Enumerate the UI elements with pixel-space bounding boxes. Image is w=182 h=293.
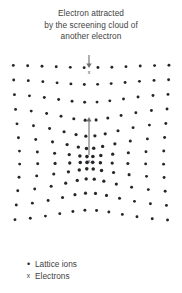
lattice-ion <box>99 161 102 164</box>
lattice-ion <box>166 108 169 111</box>
lattice-ion <box>27 79 30 82</box>
lattice-ion <box>129 140 132 143</box>
lattice-ion <box>13 93 16 96</box>
legend: • Lattice ions x Electrons <box>22 258 77 283</box>
lattice-ion <box>61 196 64 199</box>
lattice-ion <box>167 78 170 81</box>
lattice-ion <box>78 154 82 158</box>
lattice-ion <box>122 98 125 101</box>
lattice-ion <box>83 209 86 212</box>
lattice-ion <box>167 93 170 96</box>
arrow-head-icon <box>86 117 91 122</box>
lattice-ion <box>83 83 86 86</box>
electron-screening-figure: Electron attracted by the screening clou… <box>0 0 182 293</box>
lattice-ion <box>164 190 167 193</box>
lattice-ion <box>71 210 74 213</box>
lattice-ion <box>14 218 17 221</box>
legend-item-electrons: x Electrons <box>22 270 77 282</box>
lattice-ion <box>56 81 59 84</box>
lattice-ion <box>71 100 74 103</box>
lattice-ion <box>128 173 131 176</box>
lattice-ion <box>100 169 103 172</box>
lattice-ion <box>107 211 110 214</box>
lattice-ion <box>67 170 70 173</box>
attraction-arrow <box>86 55 91 68</box>
lattice-ion <box>36 150 39 153</box>
lattice-ion <box>28 94 31 97</box>
lattice-ion <box>17 136 20 139</box>
lattice-ion <box>127 151 130 154</box>
lattice-ion <box>12 64 15 67</box>
lattice-ion <box>73 193 76 196</box>
legend-item-lattice-ions: • Lattice ions <box>22 258 77 270</box>
lattice-ion <box>94 192 97 195</box>
lattice-ion <box>111 153 114 156</box>
lattice-ion <box>64 182 67 185</box>
lattice-ion <box>53 152 56 155</box>
lattice-ion <box>112 171 115 174</box>
lattice-ion <box>153 79 156 82</box>
lattice-diagram: xx <box>0 55 182 240</box>
lattice-ion <box>31 202 34 205</box>
lattice-ion <box>57 98 60 101</box>
lattice-ion <box>91 155 95 159</box>
lattice-ion <box>33 187 36 190</box>
lattice-ion <box>145 150 148 153</box>
lattice-ion <box>51 140 54 143</box>
lattice-ion <box>83 101 86 104</box>
lattice-ion <box>132 126 135 129</box>
lattice-ion <box>65 143 68 146</box>
lattice-ion <box>168 64 171 67</box>
lattice-ion <box>97 66 100 69</box>
lattice-ion <box>55 65 58 68</box>
lattice-ion <box>68 161 71 164</box>
lattice-ion <box>163 136 166 139</box>
lattice-ion <box>144 162 147 165</box>
lattice-ion <box>116 129 119 132</box>
lattice-ion <box>52 172 55 175</box>
lattice-ion <box>108 99 111 102</box>
lattice-ion <box>164 122 167 125</box>
lattice-ion <box>77 145 80 148</box>
lattice-ion <box>35 174 38 177</box>
electron-icon: x <box>22 270 35 282</box>
lattice-ion <box>113 142 116 145</box>
lattice-ion <box>152 94 155 97</box>
lattice-ion <box>138 80 141 83</box>
lattice-ion <box>148 124 151 127</box>
lattice-ion <box>133 200 136 203</box>
lattice-ion <box>145 175 148 178</box>
lattice-ion <box>96 101 99 104</box>
lattice-ion <box>101 145 104 148</box>
legend-label-lattice-ions: Lattice ions <box>35 258 77 270</box>
lattice-ion <box>15 204 18 207</box>
incoming-electron: x <box>88 69 91 75</box>
lattice-ion <box>72 117 75 120</box>
lattice-ion <box>14 108 17 111</box>
lattice-ion <box>63 130 66 133</box>
lattice-ion <box>162 163 165 166</box>
lattice-ion <box>84 135 87 138</box>
lattice-ion <box>126 162 129 165</box>
lattice-ion <box>30 110 33 113</box>
arrow-head-icon <box>86 63 91 68</box>
lattice-ion <box>34 138 37 141</box>
lattice-ion <box>93 134 96 137</box>
lattice-ion <box>85 167 89 171</box>
lattice-ion <box>96 83 99 86</box>
lattice-ion <box>41 80 44 83</box>
lattice-ion <box>124 81 127 84</box>
lattice-ion <box>85 147 88 150</box>
lattice-ion <box>18 150 21 153</box>
lattice-ion <box>78 168 81 171</box>
lattice-ion <box>136 215 139 218</box>
lattice-ion <box>105 194 108 197</box>
lattice-ion <box>60 115 63 118</box>
caption-line-2: by the screening cloud of <box>0 20 182 32</box>
lattice-ion <box>151 217 154 220</box>
lattice-ion-layer <box>12 64 171 222</box>
lattice-ion <box>92 146 95 149</box>
lattice-ion <box>84 119 87 122</box>
lattice-ion <box>41 65 44 68</box>
lattice-ion <box>69 66 72 69</box>
